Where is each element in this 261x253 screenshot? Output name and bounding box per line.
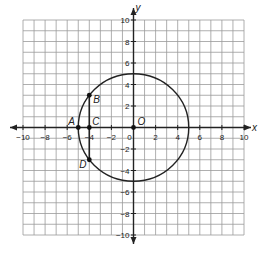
point-label-d: D — [79, 159, 86, 170]
y-tick-label: −10 — [116, 231, 130, 240]
x-tick-label: −8 — [41, 133, 51, 142]
x-tick-label: 4 — [175, 133, 180, 142]
x-tick-label: 2 — [153, 133, 158, 142]
x-tick-label: 6 — [198, 133, 203, 142]
y-tick-label: 4 — [125, 81, 130, 90]
x-axis-label: x — [251, 122, 258, 133]
y-tick-label: 6 — [125, 59, 130, 68]
y-tick-label: 10 — [121, 16, 130, 25]
x-tick-label: 8 — [220, 133, 225, 142]
x-tick-label: 0 — [127, 133, 132, 142]
y-tick-label: 8 — [125, 38, 130, 47]
x-axis-right-arrow-icon — [244, 125, 251, 131]
y-tick-label: 2 — [125, 102, 130, 111]
point-label-a: A — [67, 116, 75, 127]
x-tick-label: 10 — [240, 133, 249, 142]
x-axis-left-arrow-icon — [10, 125, 17, 131]
point-o — [131, 125, 136, 130]
y-axis-down-arrow-icon — [131, 237, 137, 244]
x-tick-label: −6 — [63, 133, 73, 142]
point-b — [87, 93, 92, 98]
y-tick-label: −4 — [120, 167, 130, 176]
y-tick-label: −2 — [120, 145, 130, 154]
x-tick-label: −10 — [16, 133, 30, 142]
point-label-c: C — [92, 116, 100, 127]
point-label-b: B — [93, 94, 100, 105]
x-tick-label: −2 — [107, 133, 117, 142]
y-tick-label: −6 — [120, 188, 130, 197]
point-a — [76, 125, 81, 130]
y-axis-label: y — [135, 2, 142, 13]
coordinate-plane: −10−8−6−4−20246810108642−2−4−6−8−10xyABC… — [0, 0, 261, 253]
point-c — [87, 125, 92, 130]
point-d — [87, 157, 92, 162]
point-label-o: O — [138, 116, 146, 127]
y-tick-label: −8 — [120, 210, 130, 219]
